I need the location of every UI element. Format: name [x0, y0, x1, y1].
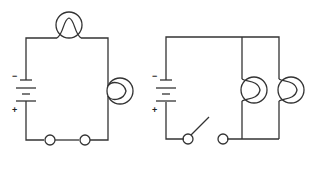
circuit-diagrams: − + − +: [0, 0, 310, 181]
wire-bottom-left: [166, 102, 184, 139]
battery-icon: [156, 80, 176, 101]
wire-bottom-left: [26, 102, 44, 140]
open-switch-icon: [183, 117, 228, 144]
negative-label: −: [152, 71, 157, 81]
battery-icon: [16, 80, 36, 102]
terminal-icon: [45, 135, 55, 145]
positive-label: +: [12, 105, 17, 115]
negative-label: −: [12, 71, 17, 81]
positive-label: +: [152, 105, 157, 115]
wire-top: [166, 37, 279, 80]
bulb-icon: [107, 78, 133, 108]
parallel-circuit: − +: [152, 37, 304, 144]
wire-top-right: [81, 38, 108, 86]
bulb-icon: [278, 77, 304, 103]
wire-top-left: [26, 38, 57, 80]
series-circuit: − +: [12, 12, 133, 145]
terminal-icon: [80, 135, 90, 145]
wire-right-bottom: [90, 108, 108, 140]
bulb-icon: [241, 77, 267, 103]
bulb-icon: [56, 12, 82, 38]
